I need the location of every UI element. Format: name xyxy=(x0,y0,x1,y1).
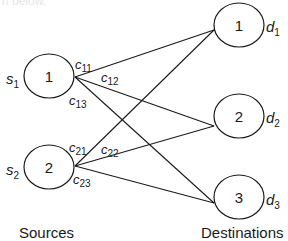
destination-label-d3: d3 xyxy=(266,192,280,207)
destination-label-d1: d1 xyxy=(266,19,280,34)
destination-node-3-number: 3 xyxy=(235,190,243,205)
source-label-s2: s2 xyxy=(6,162,19,177)
cost-label-c12: c12 xyxy=(101,71,119,84)
cost-label-c22: c22 xyxy=(101,143,119,156)
edge-s1-d2 xyxy=(75,77,214,126)
source-node-1-number: 1 xyxy=(45,69,53,84)
destinations-group-label: Destinations xyxy=(201,224,284,241)
destination-label-d2: d2 xyxy=(266,110,280,125)
destination-node-1-number: 1 xyxy=(235,18,243,33)
cost-label-c21: c21 xyxy=(69,141,87,154)
edge-s1-d1 xyxy=(75,30,214,77)
source-node-2-number: 2 xyxy=(45,160,53,175)
source-label-s1: s1 xyxy=(6,71,19,86)
destination-node-2-number: 2 xyxy=(235,109,243,124)
network-diagram xyxy=(0,0,288,241)
cost-label-c23: c23 xyxy=(73,173,91,186)
cost-label-c13: c13 xyxy=(69,94,87,107)
cost-label-c11: c11 xyxy=(75,58,92,71)
sources-group-label: Sources xyxy=(19,224,74,241)
